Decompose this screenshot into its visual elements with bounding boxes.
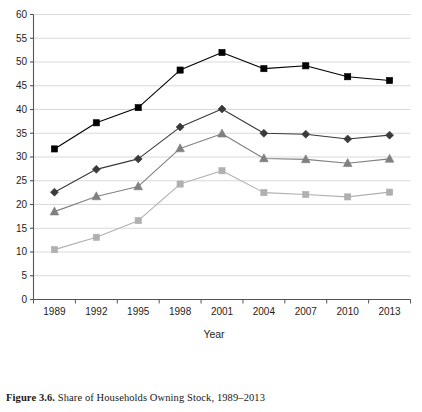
y-axis-tick-labels: 051015202530354045505560 [16, 9, 28, 305]
x-tick-label: 1995 [127, 306, 150, 317]
data-point [386, 77, 392, 83]
data-point [93, 234, 99, 240]
x-tick-label: 1998 [169, 306, 192, 317]
x-tick-label: 2013 [378, 306, 401, 317]
data-point [218, 105, 226, 113]
x-tick-label: 2007 [295, 306, 318, 317]
y-tick-label: 25 [16, 175, 28, 186]
y-tick-label: 35 [16, 128, 28, 139]
data-point [303, 191, 309, 197]
data-point [301, 155, 310, 163]
figure-container: 051015202530354045505560 198919921995199… [0, 0, 422, 412]
y-tick-label: 30 [16, 151, 28, 162]
y-tick-label: 0 [21, 294, 27, 305]
data-point [51, 247, 57, 253]
x-tick-label: 2001 [211, 306, 234, 317]
data-series-layer [50, 49, 394, 252]
data-series [50, 105, 393, 196]
figure-caption-label: Figure 3.6. [6, 392, 55, 403]
data-point [50, 188, 58, 196]
y-tick-label: 15 [16, 223, 28, 234]
chart-plot-area: 051015202530354045505560 198919921995199… [0, 0, 422, 350]
data-point [261, 190, 267, 196]
data-point [302, 130, 310, 138]
data-point [92, 165, 100, 173]
data-point [177, 181, 183, 187]
y-tick-label: 55 [16, 33, 28, 44]
data-point [385, 154, 394, 162]
x-tick-label: 1992 [85, 306, 108, 317]
data-point [219, 49, 225, 55]
x-axis-title: Year [203, 328, 225, 340]
x-tick-label: 2004 [253, 306, 276, 317]
y-tick-label: 50 [16, 56, 28, 67]
y-tick-label: 60 [16, 9, 28, 20]
data-point [51, 146, 57, 152]
figure-caption: Figure 3.6. Share of Households Owning S… [6, 392, 416, 403]
data-point [135, 105, 141, 111]
data-point [261, 66, 267, 72]
y-tick-label: 40 [16, 104, 28, 115]
y-tick-label: 5 [21, 270, 27, 281]
data-point [303, 63, 309, 69]
data-point [386, 189, 392, 195]
y-tick-label: 20 [16, 199, 28, 210]
data-point [260, 129, 268, 137]
x-tick-label: 2010 [337, 306, 360, 317]
y-tick-label: 10 [16, 246, 28, 257]
data-point [260, 154, 269, 162]
y-tick-label: 45 [16, 80, 28, 91]
data-point [177, 67, 183, 73]
data-point [386, 131, 394, 139]
data-point [344, 135, 352, 143]
data-point [93, 120, 99, 126]
x-tick-label: 1989 [43, 306, 66, 317]
data-point [219, 168, 225, 174]
x-axis-ticks [34, 300, 411, 304]
figure-caption-text: Share of Households Owning Stock, 1989–2… [55, 392, 265, 403]
data-point [135, 218, 141, 224]
data-point [345, 74, 351, 80]
line-chart: 051015202530354045505560 198919921995199… [0, 0, 422, 350]
x-axis-tick-labels: 198919921995199820012004200720102013 [43, 306, 401, 317]
data-point [345, 194, 351, 200]
